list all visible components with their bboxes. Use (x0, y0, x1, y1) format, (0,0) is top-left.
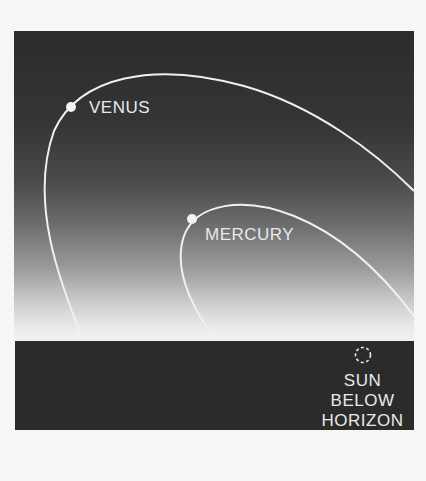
mercury-planet-dot (187, 214, 197, 224)
mercury-label: MERCURY (205, 225, 294, 245)
planet-orbits (14, 31, 414, 342)
sun-label-line-3: HORIZON (300, 411, 425, 431)
diagram-canvas: VENUS MERCURY SUN BELOW HORIZON (0, 0, 426, 481)
sun-indicator: SUN BELOW HORIZON (300, 345, 425, 431)
sun-label-line-1: SUN (300, 371, 425, 391)
dashed-circle-icon (353, 345, 373, 365)
venus-label: VENUS (89, 98, 150, 118)
venus-planet-dot (66, 102, 76, 112)
sun-label-line-2: BELOW (300, 391, 425, 411)
sun-label: SUN BELOW HORIZON (300, 371, 425, 431)
